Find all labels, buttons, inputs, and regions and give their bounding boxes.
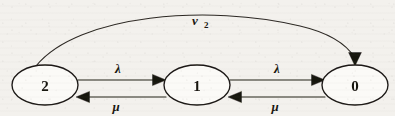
node-2-label: 2 <box>41 78 49 94</box>
edge-label-lambda-right: λ <box>273 61 280 76</box>
arc-label-subscript: 2 <box>204 20 209 30</box>
arc-2-to-0 <box>36 15 361 66</box>
node-0-label: 0 <box>351 78 359 94</box>
edge-label-lambda-left: λ <box>114 61 121 76</box>
edge-label-mu-left: μ <box>111 99 119 114</box>
edge-1-to-2-arrowhead <box>76 91 90 102</box>
arc-label-symbol: ν <box>192 13 198 28</box>
arc-2-to-0-arrowhead <box>349 53 362 67</box>
state-transition-diagram: 2 1 0 λ μ λ μ ν 2 <box>0 0 395 116</box>
node-0[interactable]: 0 <box>322 65 388 105</box>
edge-pair-2-1 <box>76 74 166 102</box>
edge-0-to-1-arrowhead <box>228 91 242 102</box>
diagram-canvas: 2 1 0 λ μ λ μ ν 2 <box>0 0 395 116</box>
node-2[interactable]: 2 <box>12 65 78 105</box>
node-1-label: 1 <box>193 78 201 94</box>
edge-label-mu-right: μ <box>270 99 278 114</box>
node-1[interactable]: 1 <box>164 65 230 105</box>
